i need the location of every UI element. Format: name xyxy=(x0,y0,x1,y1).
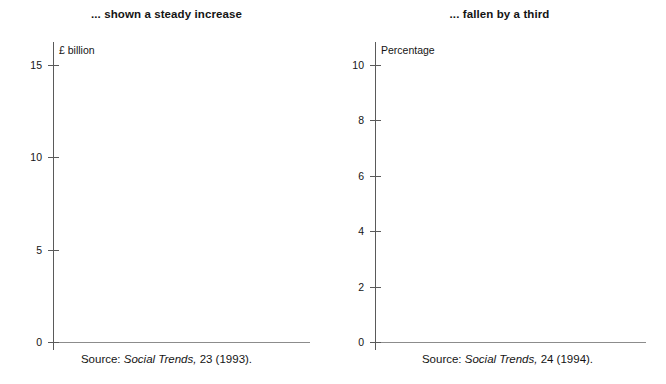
y-axis-line-right xyxy=(375,42,376,350)
source-note-right: Source: Social Trends, 24 (1994). xyxy=(341,353,666,365)
y-tick-label-8-right: 8 xyxy=(335,114,364,126)
source-prefix-left: Source: xyxy=(81,353,124,365)
y-tick-mark-10-right xyxy=(370,65,381,66)
y-tick-mark-0-left xyxy=(48,342,59,343)
source-work-title-left: Social Trends xyxy=(124,353,193,365)
y-tick-label-6-right: 6 xyxy=(335,170,364,182)
chart-panel-left: ... shown a steady increase 15 10 5 0 £ … xyxy=(0,0,333,384)
y-tick-label-10-left: 10 xyxy=(12,151,42,163)
source-issue-right: 24 (1994). xyxy=(537,353,593,365)
y-tick-label-15-left: 15 xyxy=(12,59,42,71)
y-tick-label-10-right: 10 xyxy=(335,59,364,71)
chart-figure: ... shown a steady increase 15 10 5 0 £ … xyxy=(0,0,666,384)
plot-area-left: 15 10 5 0 £ billion xyxy=(0,0,333,384)
y-tick-mark-15-left xyxy=(48,65,59,66)
y-tick-label-0-left: 0 xyxy=(12,336,42,348)
y-axis-unit-label-right: Percentage xyxy=(381,44,435,56)
y-tick-mark-0-right xyxy=(370,342,381,343)
plot-area-right: 10 8 6 4 2 0 Percentage xyxy=(333,0,666,384)
y-tick-label-2-right: 2 xyxy=(335,281,364,293)
y-tick-mark-10-left xyxy=(48,157,59,158)
y-tick-mark-2-right xyxy=(370,287,381,288)
x-axis-baseline-right xyxy=(375,342,646,343)
y-tick-label-4-right: 4 xyxy=(335,225,364,237)
x-axis-baseline-left xyxy=(53,342,310,343)
source-work-title-right: Social Trends xyxy=(465,353,534,365)
y-tick-label-5-left: 5 xyxy=(12,244,42,256)
y-axis-line-left xyxy=(53,42,54,350)
source-prefix-right: Source: xyxy=(422,353,465,365)
y-tick-label-0-right: 0 xyxy=(335,336,364,348)
y-tick-mark-6-right xyxy=(370,176,381,177)
y-tick-mark-5-left xyxy=(48,250,59,251)
chart-panel-right: ... fallen by a third 10 8 6 4 2 0 Perce… xyxy=(333,0,666,384)
y-tick-mark-8-right xyxy=(370,120,381,121)
source-note-left: Source: Social Trends, 23 (1993). xyxy=(0,353,333,365)
y-axis-unit-label-left: £ billion xyxy=(59,44,95,56)
y-tick-mark-4-right xyxy=(370,231,381,232)
source-issue-left: 23 (1993). xyxy=(196,353,252,365)
